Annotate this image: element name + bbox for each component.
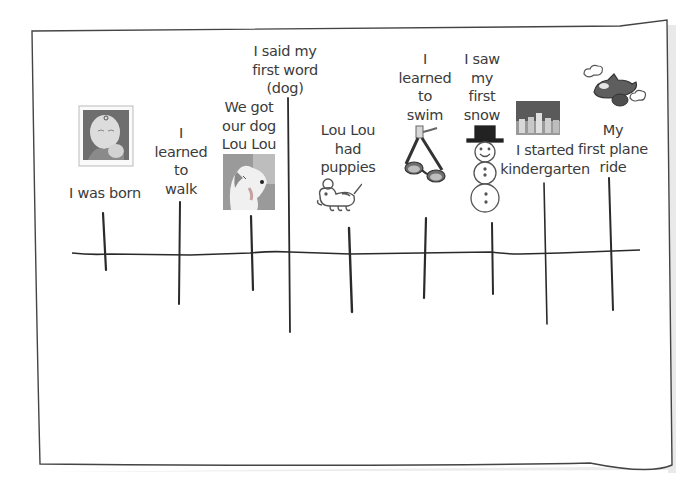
event-label-snow: I saw my first snow	[464, 50, 500, 124]
airplane-icon	[582, 62, 648, 112]
event-label-plane: My first plane ride	[578, 121, 648, 177]
event-label-swim: I learned to swim	[399, 50, 452, 124]
school-photo-icon	[516, 101, 560, 135]
event-label-dog: We got our dog Lou Lou	[222, 98, 276, 154]
event-label-puppies: Lou Lou had puppies	[320, 121, 375, 177]
event-label-walk: I learned to walk	[155, 124, 208, 198]
timeline-sheet: I was born I learned to walk We got our …	[0, 0, 694, 488]
event-label-first-word: I said my first word (dog)	[252, 42, 318, 98]
puppy-icon	[316, 176, 362, 218]
baby-photo-icon	[78, 105, 134, 167]
snowman-icon	[465, 124, 505, 216]
swim-goggles-icon	[402, 124, 452, 186]
dog-photo-icon	[223, 154, 275, 210]
event-label-born: I was born	[69, 184, 141, 203]
event-label-kindergarten: I started kindergarten	[500, 141, 590, 178]
